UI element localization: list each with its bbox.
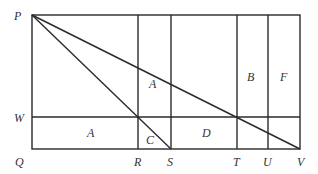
point-label-q: Q bbox=[15, 155, 24, 169]
region-label-a-lower: A bbox=[86, 126, 95, 140]
region-label-a-upper: A bbox=[148, 77, 157, 91]
region-label-b: B bbox=[247, 70, 255, 84]
diagonal-pv bbox=[32, 15, 300, 149]
point-label-u: U bbox=[263, 155, 273, 169]
point-label-s: S bbox=[167, 155, 173, 169]
point-label-r: R bbox=[133, 155, 142, 169]
region-label-d: D bbox=[201, 126, 211, 140]
point-label-p: P bbox=[13, 9, 22, 23]
point-label-w: W bbox=[14, 111, 25, 125]
region-label-f: F bbox=[279, 70, 288, 84]
point-label-t: T bbox=[233, 155, 241, 169]
geometry-diagram: P W Q R S T U V A A C D B F bbox=[0, 0, 318, 174]
point-label-v: V bbox=[297, 155, 306, 169]
region-label-c: C bbox=[146, 133, 155, 147]
